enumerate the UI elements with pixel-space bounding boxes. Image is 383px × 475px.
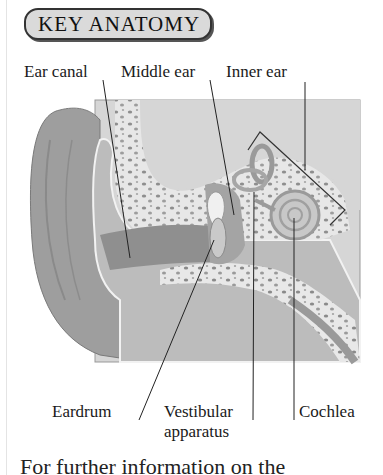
label-middle-ear: Middle ear (121, 62, 195, 82)
label-inner-ear: Inner ear (226, 62, 287, 82)
label-cochlea: Cochlea (299, 402, 355, 422)
eardrum-shape (210, 218, 226, 258)
label-eardrum: Eardrum (52, 402, 111, 422)
cochlea-shape (271, 191, 319, 239)
label-ear-canal: Ear canal (24, 62, 88, 82)
label-vestibular-line1: Vestibular (164, 402, 233, 422)
footer-text: For further information on the (20, 454, 285, 475)
label-vestibular-line2: apparatus (164, 422, 229, 442)
